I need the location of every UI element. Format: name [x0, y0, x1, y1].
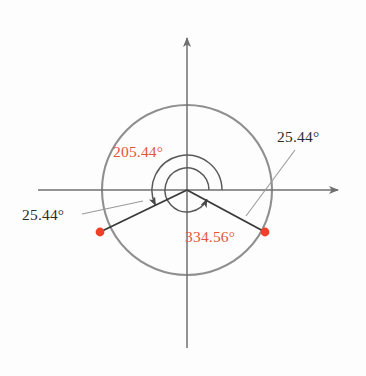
- reference-angle-label-left: 25.44°: [22, 206, 64, 224]
- leader-line-left: [82, 201, 143, 214]
- terminal-point-205: [96, 228, 105, 237]
- angle-label-205: 205.44°: [113, 143, 163, 161]
- reference-angle-label-right: 25.44°: [277, 128, 319, 146]
- terminal-ray-334: [187, 190, 265, 232]
- terminal-ray-205: [100, 190, 187, 232]
- angle-label-334: 334.56°: [185, 228, 235, 246]
- diagram-canvas: [0, 0, 366, 376]
- angle-diagram-figure: 205.44° 334.56° 25.44° 25.44°: [0, 0, 366, 376]
- terminal-point-334: [261, 228, 270, 237]
